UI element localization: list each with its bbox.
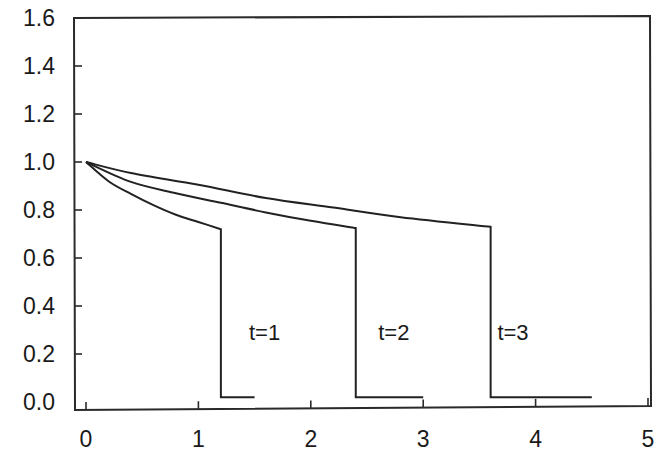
y-tick-label: 0.4 <box>23 293 55 319</box>
series-line-t-3 <box>86 162 592 397</box>
x-tick-label: 0 <box>80 426 93 452</box>
y-tick-label: 1.4 <box>23 53 55 79</box>
y-tick-label: 0.0 <box>23 389 55 415</box>
x-tick-label: 4 <box>529 426 542 452</box>
y-tick-label: 0.6 <box>23 245 55 271</box>
series-label: t=1 <box>249 320 280 345</box>
x-tick-label: 5 <box>642 426 655 452</box>
series-label: t=2 <box>378 320 409 345</box>
chart: 0.00.20.40.60.81.01.21.41.6 012345 t=1t=… <box>0 0 670 468</box>
series-annotations: t=1t=2t=3 <box>249 320 529 345</box>
series-label: t=3 <box>497 320 528 345</box>
plot-border <box>74 16 651 410</box>
y-tick-label: 0.2 <box>23 341 55 367</box>
y-tick-label: 1.0 <box>23 149 55 175</box>
series-line-t-1 <box>86 162 255 397</box>
x-tick-label: 3 <box>417 426 430 452</box>
x-tick-label: 2 <box>304 426 317 452</box>
y-tick-label: 1.2 <box>23 101 55 127</box>
y-tick-label: 1.6 <box>23 5 55 31</box>
y-tick-label: 0.8 <box>23 197 55 223</box>
plot-series <box>86 162 592 397</box>
plot-frame <box>74 16 651 410</box>
x-tick-label: 1 <box>192 426 205 452</box>
